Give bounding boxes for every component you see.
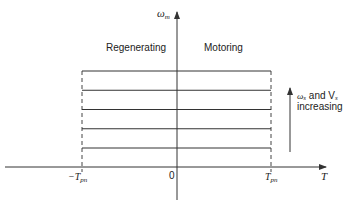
y-axis-label: ωm xyxy=(157,7,170,21)
region-label-regenerating: Regenerating xyxy=(106,42,166,53)
arrow-note-line2: increasing xyxy=(297,101,343,112)
neg-limit-label: −Tpn xyxy=(68,171,88,184)
region-label-motoring: Motoring xyxy=(204,42,243,53)
torque-speed-diagram: ωm T Regenerating Motoring −Tpn 0 Tpn ωs… xyxy=(0,0,347,209)
origin-label: 0 xyxy=(169,170,175,181)
x-axis-label: T xyxy=(321,170,328,182)
pos-limit-label: Tpn xyxy=(265,171,278,184)
